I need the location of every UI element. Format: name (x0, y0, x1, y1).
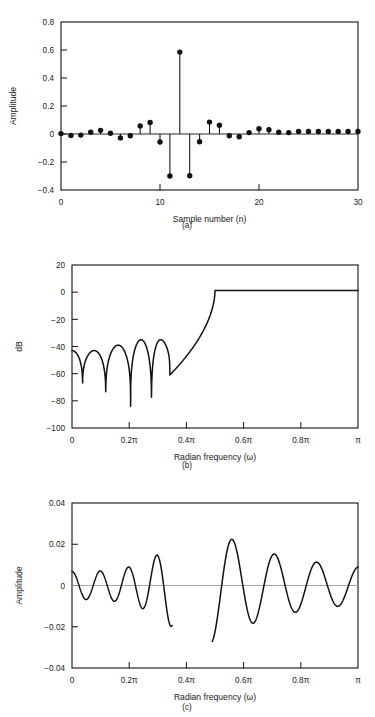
svg-text:π: π (355, 676, 361, 685)
svg-text:−100: −100 (47, 424, 66, 433)
svg-text:−60: −60 (51, 370, 65, 379)
svg-text:0.2π: 0.2π (121, 676, 138, 685)
svg-text:0.2π: 0.2π (121, 436, 138, 445)
panel-b-plot: −100−80−60−40−2002000.2π0.4π0.6π0.8ππRad… (0, 240, 375, 478)
stem-marker (286, 130, 291, 135)
svg-text:π: π (355, 436, 361, 445)
stem-marker (58, 131, 63, 136)
magnitude-curve (72, 291, 358, 407)
svg-text:dB: dB (14, 341, 24, 352)
stem-marker (68, 133, 73, 138)
panel-a-plot: −0.4−0.200.20.40.60.80102030Sample numbe… (0, 0, 375, 240)
stem-marker (118, 135, 123, 140)
stem-marker (197, 139, 202, 144)
svg-text:0.8: 0.8 (43, 18, 55, 27)
error-curve-stopband (72, 555, 172, 626)
svg-text:0.4π: 0.4π (178, 436, 195, 445)
svg-text:−20: −20 (51, 316, 65, 325)
stem-marker (296, 129, 301, 134)
error-curve-passband (212, 539, 358, 641)
svg-text:0.2: 0.2 (43, 102, 55, 111)
stem-marker (128, 133, 133, 138)
panel-a-impulse-response: −0.4−0.200.20.40.60.80102030Sample numbe… (0, 0, 375, 240)
stem-marker (78, 132, 83, 137)
svg-text:Amplitude: Amplitude (8, 87, 18, 125)
svg-text:0: 0 (70, 676, 75, 685)
svg-text:−0.2: −0.2 (38, 158, 55, 167)
stem-marker (88, 130, 93, 135)
panel-b-log-magnitude: −100−80−60−40−2002000.2π0.4π0.6π0.8ππRad… (0, 240, 375, 478)
stem-marker (98, 128, 103, 133)
stem-marker (217, 123, 222, 128)
svg-text:20: 20 (254, 198, 264, 207)
svg-text:10: 10 (155, 198, 165, 207)
svg-text:0.02: 0.02 (49, 540, 65, 549)
svg-text:(a): (a) (182, 221, 192, 230)
stem-marker (256, 126, 261, 131)
svg-text:Radian frequency (ω): Radian frequency (ω) (174, 692, 256, 702)
svg-text:(c): (c) (182, 703, 192, 712)
svg-text:0.6π: 0.6π (235, 436, 252, 445)
svg-text:0.04: 0.04 (49, 499, 65, 508)
stem-marker (336, 129, 341, 134)
svg-text:0: 0 (60, 582, 65, 591)
svg-text:−0.04: −0.04 (44, 664, 65, 673)
stem-marker (316, 129, 321, 134)
svg-text:0: 0 (59, 198, 64, 207)
svg-text:0.6π: 0.6π (235, 676, 252, 685)
stem-marker (227, 133, 232, 138)
stem-marker (276, 130, 281, 135)
svg-text:20: 20 (56, 261, 66, 270)
svg-text:30: 30 (353, 198, 363, 207)
stem-marker (157, 139, 162, 144)
stem-marker (345, 129, 350, 134)
stem-marker (246, 130, 251, 135)
svg-text:−0.4: −0.4 (38, 186, 55, 195)
stem-marker (237, 134, 242, 139)
panel-c-plot: −0.04−0.0200.020.0400.2π0.4π0.6π0.8ππRad… (0, 478, 375, 717)
stem-marker (207, 119, 212, 124)
stem-marker (306, 129, 311, 134)
svg-text:−80: −80 (51, 397, 65, 406)
svg-text:0: 0 (49, 130, 54, 139)
stem-series (58, 49, 360, 178)
stem-marker (326, 129, 331, 134)
stem-marker (167, 173, 172, 178)
stem-marker (108, 131, 113, 136)
svg-text:0.4π: 0.4π (178, 676, 195, 685)
svg-text:(b): (b) (182, 461, 192, 470)
stem-marker (147, 120, 152, 125)
svg-text:0.6: 0.6 (43, 46, 55, 55)
stem-marker (266, 127, 271, 132)
svg-text:0: 0 (70, 436, 75, 445)
svg-text:−40: −40 (51, 343, 65, 352)
stem-marker (355, 129, 360, 134)
stem-marker (187, 173, 192, 178)
svg-text:0.4: 0.4 (43, 74, 55, 83)
svg-text:0: 0 (60, 288, 65, 297)
svg-text:Amplitude: Amplitude (14, 566, 24, 604)
stem-marker (138, 123, 143, 128)
svg-text:0.8π: 0.8π (292, 436, 309, 445)
stem-marker (177, 49, 182, 54)
svg-text:−0.02: −0.02 (44, 623, 65, 632)
svg-text:0.8π: 0.8π (292, 676, 309, 685)
panel-c-approximation-error: −0.04−0.0200.020.0400.2π0.4π0.6π0.8ππRad… (0, 478, 375, 717)
